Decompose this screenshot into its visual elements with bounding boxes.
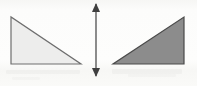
- right-triangle-shape: [113, 17, 184, 64]
- geometry-diagram: [0, 0, 197, 86]
- figure-canvas: [0, 0, 197, 86]
- arrowhead-down-icon: [92, 68, 100, 77]
- arrowhead-up-icon: [92, 3, 100, 12]
- reflection-axis-arrow: [92, 3, 100, 77]
- left-triangle-shape: [11, 17, 81, 64]
